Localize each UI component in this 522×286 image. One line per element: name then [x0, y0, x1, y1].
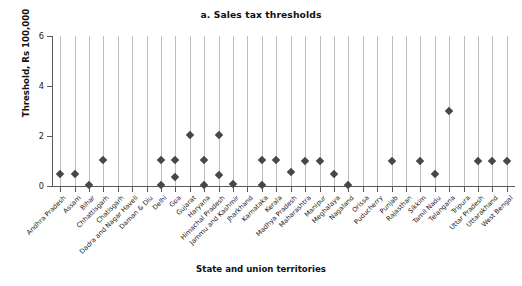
grid-line	[75, 36, 76, 186]
data-point-marker	[214, 171, 222, 179]
x-axis-tick	[392, 187, 393, 192]
x-axis-tick	[75, 187, 76, 192]
x-axis-tick	[507, 187, 508, 192]
x-axis-tick	[406, 187, 407, 192]
chart-title: a. Sales tax thresholds	[0, 9, 522, 20]
x-axis-tick	[161, 187, 162, 192]
grid-line	[147, 36, 148, 186]
data-point-marker	[387, 157, 395, 165]
data-point-marker	[200, 156, 208, 164]
x-axis-tick	[420, 187, 421, 192]
x-axis-tick	[492, 187, 493, 192]
x-axis-tick-label: Delhi	[151, 194, 169, 212]
x-axis-spine	[52, 186, 515, 187]
x-axis-tick	[262, 187, 263, 192]
grid-line	[247, 36, 248, 186]
y-axis-tick: 2	[47, 136, 52, 137]
grid-line	[406, 36, 407, 186]
data-point-marker	[286, 168, 294, 176]
data-point-marker	[258, 156, 266, 164]
x-axis-tick	[219, 187, 220, 192]
x-axis-tick	[377, 187, 378, 192]
y-axis-tick-label: 6	[39, 31, 44, 41]
x-axis-tick	[449, 187, 450, 192]
grid-line	[435, 36, 436, 186]
grid-line	[348, 36, 349, 186]
data-point-marker	[474, 157, 482, 165]
grid-line	[464, 36, 465, 186]
x-axis-tick	[190, 187, 191, 192]
data-point-marker	[186, 131, 194, 139]
grid-line	[118, 36, 119, 186]
grid-line	[132, 36, 133, 186]
data-point-marker	[99, 156, 107, 164]
x-axis-tick	[60, 187, 61, 192]
x-axis-tick	[233, 187, 234, 192]
x-axis-tick	[175, 187, 176, 192]
data-point-marker	[416, 157, 424, 165]
data-point-marker	[431, 169, 439, 177]
x-axis-label: State and union territories	[0, 264, 522, 274]
x-axis-tick	[247, 187, 248, 192]
x-axis-tick	[320, 187, 321, 192]
chart-figure: a. Sales tax thresholds Threshold, Rs 10…	[0, 0, 522, 286]
x-axis-tick	[103, 187, 104, 192]
x-axis-tick	[89, 187, 90, 192]
x-axis-tick	[291, 187, 292, 192]
y-axis-tick-label: 0	[39, 181, 44, 191]
data-point-marker	[503, 157, 511, 165]
data-point-marker	[56, 169, 64, 177]
grid-line	[219, 36, 220, 186]
x-axis-tick	[132, 187, 133, 192]
y-axis-tick: 6	[47, 36, 52, 37]
data-point-marker	[445, 107, 453, 115]
y-axis-label: Threshold, Rs 100,000	[21, 0, 31, 133]
x-axis-tick	[435, 187, 436, 192]
grid-line	[363, 36, 364, 186]
data-point-marker	[171, 156, 179, 164]
y-axis-tick: 4	[47, 86, 52, 87]
data-point-marker	[315, 157, 323, 165]
x-axis-tick	[204, 187, 205, 192]
grid-line	[334, 36, 335, 186]
x-axis-tick	[464, 187, 465, 192]
y-axis-tick: 0	[47, 186, 52, 187]
grid-line	[291, 36, 292, 186]
x-axis-tick	[118, 187, 119, 192]
x-axis-tick	[147, 187, 148, 192]
x-axis-tick	[363, 187, 364, 192]
data-point-marker	[157, 156, 165, 164]
x-axis-tick	[478, 187, 479, 192]
grid-line	[377, 36, 378, 186]
data-point-marker	[272, 156, 280, 164]
x-axis-tick	[348, 187, 349, 192]
data-point-marker	[301, 157, 309, 165]
grid-line	[233, 36, 234, 186]
plot-area	[53, 36, 514, 186]
grid-line	[60, 36, 61, 186]
x-axis-tick	[334, 187, 335, 192]
data-point-marker	[214, 131, 222, 139]
y-axis-tick-label: 2	[39, 131, 44, 141]
data-point-marker	[330, 169, 338, 177]
x-axis-tick	[276, 187, 277, 192]
x-axis-tick	[305, 187, 306, 192]
data-point-marker	[488, 157, 496, 165]
x-axis-tick-label: Andhra Pradesh	[25, 194, 68, 237]
grid-line	[89, 36, 90, 186]
grid-line	[190, 36, 191, 186]
data-point-marker	[70, 169, 78, 177]
data-point-marker	[171, 173, 179, 181]
y-axis-tick-label: 4	[39, 81, 44, 91]
